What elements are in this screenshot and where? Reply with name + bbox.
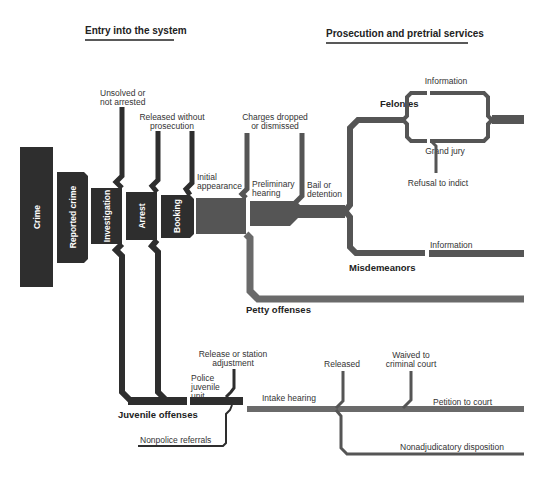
category-petty: Petty offenses: [246, 304, 311, 315]
criminal-justice-flow-diagram: Entry into the system Prosecution and pr…: [0, 0, 544, 478]
branch-misdemeanors: [345, 211, 425, 253]
label-nonadjudicatory: Nonadjudicatory disposition: [400, 442, 504, 452]
felony-grandjury-path-right: [430, 120, 492, 141]
label-released-wo-2: prosecution: [150, 121, 194, 131]
label-petition: Petition to court: [433, 397, 493, 407]
label-bail-2: detention: [307, 189, 342, 199]
stage-investigation-label: Investigation: [102, 190, 112, 242]
misdemeanor-information-band: [429, 250, 524, 257]
band-initial-appearance: [196, 198, 246, 234]
stage-reported-crime-label: Reported crime: [68, 186, 78, 249]
label-unsolved-2: not arrested: [100, 97, 146, 107]
felony-info-path-right: [430, 93, 492, 120]
label-prelim-2: hearing: [252, 188, 281, 198]
category-felonies: Felonies: [380, 98, 419, 109]
category-misdemeanors: Misdemeanors: [349, 262, 416, 273]
felony-exit-band: [492, 115, 524, 124]
label-intake: Intake hearing: [262, 393, 316, 403]
felony-grandjury-path-left: [403, 120, 427, 141]
label-nonpolice: Nonpolice referrals: [140, 435, 211, 445]
juvenile-path-arrest: [152, 240, 166, 400]
label-charges-2: or dismissed: [251, 121, 299, 131]
branch-charges-dropped-2: [295, 133, 302, 203]
band-preliminary-hearing: [250, 201, 345, 226]
stage-booking-label: Booking: [172, 199, 182, 233]
stage-crime-label: Crime: [32, 205, 42, 229]
branch-charges-dropped-1: [242, 133, 247, 198]
stage-arrest-label: Arrest: [137, 203, 147, 228]
branch-released: [336, 371, 343, 408]
label-waived-2: criminal court: [386, 359, 437, 369]
juvenile-band: [128, 397, 187, 405]
category-juvenile: Juvenile offenses: [118, 409, 198, 420]
juvenile-path-investigation: [116, 244, 187, 400]
header-entry: Entry into the system: [85, 25, 187, 36]
label-refusal: Refusal to indict: [408, 178, 469, 188]
label-police-juv-3: unit: [191, 391, 205, 401]
branch-waived: [403, 371, 411, 408]
label-released: Released: [324, 359, 360, 369]
branch-release-station: [226, 369, 234, 397]
label-grand-jury: Grand jury: [425, 146, 465, 156]
label-information-top: Information: [425, 76, 468, 86]
branch-felonies: [345, 120, 403, 211]
branch-released-wo-booking: [186, 131, 192, 195]
label-release-station-2: adjustment: [212, 358, 254, 368]
branch-released-wo-arrest: [152, 131, 158, 192]
header-prosecution: Prosecution and pretrial services: [326, 28, 484, 39]
label-initial-2: appearance: [197, 181, 242, 191]
branch-unsolved: [116, 107, 122, 188]
label-information-misd: Information: [430, 240, 473, 250]
